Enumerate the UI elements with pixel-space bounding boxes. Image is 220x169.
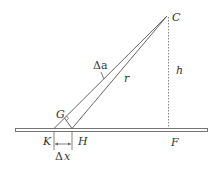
label-delta-x-var: x — [64, 150, 71, 163]
arrowhead-right — [68, 143, 71, 146]
line-ck — [54, 16, 167, 129]
label-f: F — [170, 136, 179, 149]
label-k: K — [42, 135, 52, 148]
segment-gh — [65, 118, 73, 129]
right-angle-marker — [66, 116, 68, 121]
arrowhead-left — [55, 143, 58, 146]
label-g: G — [56, 108, 65, 121]
label-c: C — [172, 11, 181, 24]
geometry-diagram: C h r Δa G K H F Δx — [0, 0, 220, 169]
delta-a-pointer — [101, 72, 104, 79]
label-r: r — [124, 72, 130, 85]
label-delta-x: Δx — [55, 150, 71, 163]
label-delta-x-symbol: Δ — [55, 150, 63, 163]
label-delta-a: Δa — [93, 59, 108, 72]
label-h-height: h — [176, 64, 183, 77]
ground-bar — [16, 129, 208, 132]
line-ch-r — [72, 16, 167, 129]
label-h-point: H — [77, 135, 88, 148]
